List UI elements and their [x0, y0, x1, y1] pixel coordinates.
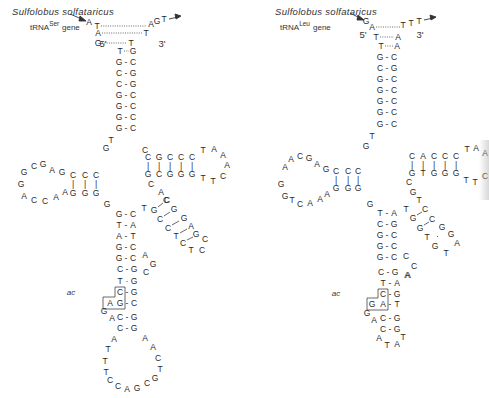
dotted-base-pairs-ser	[101, 26, 147, 51]
connector-lines	[0, 0, 489, 398]
diagonal-pairs-ser	[158, 203, 193, 240]
arrow-in-icon	[350, 13, 364, 20]
arrow-in-icon	[70, 14, 86, 21]
trna-diagram: Sulfolobus solfataricus tRNASer gene 5' …	[0, 0, 489, 398]
anticodon-box-ser	[103, 287, 125, 309]
arrow-out-icon	[169, 14, 181, 19]
anticodon-box-leu	[367, 289, 388, 310]
arrow-out-icon	[424, 15, 436, 20]
diagonal-pairs-leu	[417, 212, 438, 237]
dotted-base-pairs-leu	[376, 27, 400, 46]
page-edge-shadow	[479, 140, 489, 200]
